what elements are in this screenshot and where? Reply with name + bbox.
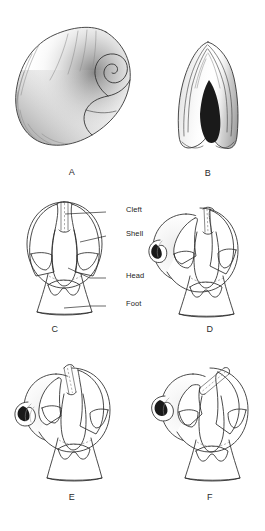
panel-a-drawing [10, 10, 145, 160]
panel-a-shell-lateral: A [10, 10, 145, 160]
panel-f-late-torsion: F [148, 352, 263, 492]
panel-letter-d: D [200, 324, 220, 334]
panel-e-drawing [14, 352, 129, 492]
callout-head: Head [126, 271, 144, 280]
panel-letter-c: C [45, 324, 65, 334]
panel-c-head [52, 230, 77, 286]
panel-f-drawing [148, 352, 263, 492]
panel-d-drawing [148, 196, 258, 326]
panel-c-untorted: Cleft Shell Head Foot C [18, 196, 148, 326]
callout-cleft: Cleft [126, 205, 142, 214]
panel-c-foot-sole [48, 280, 80, 295]
panel-letter-e: E [62, 492, 82, 502]
panel-b-drawing [170, 36, 250, 161]
panel-d-shell-right-valve [209, 210, 233, 274]
figure-plate: A [0, 0, 265, 531]
callout-foot: Foot [126, 299, 141, 308]
panel-b-shell-apertural: B [170, 36, 250, 161]
panel-c-leader-foot [64, 306, 106, 308]
panel-letter-f: F [200, 492, 220, 502]
panel-letter-a: A [62, 167, 82, 177]
panel-e-shell-right-valve [78, 370, 104, 434]
panel-letter-b: B [198, 168, 218, 178]
panel-e-mid-torsion: E [14, 352, 129, 492]
panel-a-shading [10, 10, 145, 160]
callout-shell: Shell [126, 229, 143, 238]
panel-e-shell-dome [64, 364, 74, 368]
panel-d-early-torsion: D [148, 196, 258, 326]
